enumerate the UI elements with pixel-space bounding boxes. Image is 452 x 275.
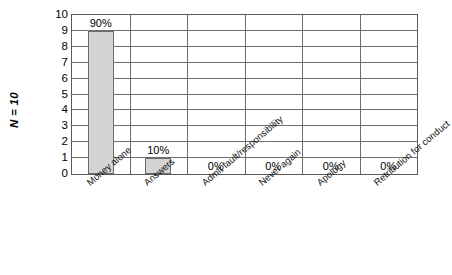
y-axis-tick-labels: 109876543210 — [40, 0, 68, 275]
y-axis-tick-label: 3 — [42, 120, 68, 132]
y-axis-tick-label: 8 — [42, 41, 68, 53]
bar-value-label: 10% — [130, 145, 188, 156]
bar-value-label: 90% — [72, 18, 130, 29]
category-separator — [187, 15, 188, 174]
y-axis-tick-label: 1 — [42, 152, 68, 164]
category-separator — [302, 15, 303, 174]
y-axis-tick-label: 9 — [42, 25, 68, 37]
y-axis-tick-label: 2 — [42, 136, 68, 148]
bar — [88, 31, 114, 174]
y-axis-tick-label: 4 — [42, 104, 68, 116]
y-axis-tick-label: 10 — [42, 9, 68, 21]
y-axis-tick-label: 7 — [42, 57, 68, 69]
y-axis-title: N = 10 — [8, 92, 20, 128]
y-axis-tick-label: 0 — [42, 168, 68, 180]
category-separator — [360, 15, 361, 174]
y-axis-tick-label: 5 — [42, 89, 68, 101]
y-axis-tick-label: 6 — [42, 73, 68, 85]
